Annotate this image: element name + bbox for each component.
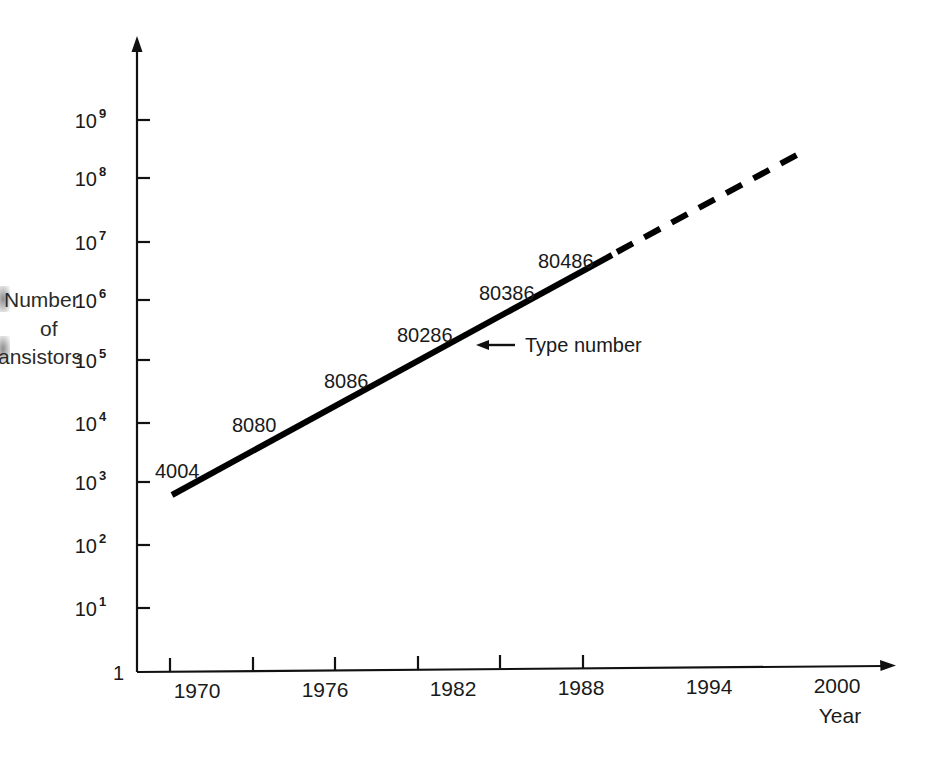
- y-tick-label-exponent: 4: [99, 409, 107, 424]
- y-tick-label-exponent: 7: [99, 228, 106, 243]
- y-tick-label-1e6: 10 6: [75, 286, 106, 312]
- point-label-4004: 4004: [155, 460, 200, 482]
- point-label-8080: 8080: [232, 414, 277, 436]
- figure-canvas: 10 9 10 8 10 7 10 6 10 5 10 4: [0, 0, 932, 768]
- y-tick-label-exponent: 5: [99, 346, 106, 361]
- y-tick-label-mantissa: 10: [75, 110, 97, 132]
- x-axis-line: [137, 666, 884, 672]
- y-tick-label-1e1: 10 1: [75, 594, 106, 620]
- x-axis: 1970 1976 1982 1988 1994 2000: [137, 655, 896, 702]
- point-label-80386: 80386: [479, 282, 535, 304]
- y-axis-title-line-2: of: [40, 317, 58, 340]
- point-label-80486: 80486: [538, 250, 594, 272]
- x-tick-label-2000: 2000: [814, 674, 861, 697]
- type-number-arrowhead-icon: [476, 340, 489, 350]
- x-axis-title: Year: [819, 704, 861, 727]
- x-tick-label-1976: 1976: [302, 678, 349, 701]
- x-tick-label-1982: 1982: [430, 677, 477, 700]
- y-tick-label-mantissa: 10: [75, 413, 97, 435]
- y-tick-label-exponent: 8: [99, 164, 106, 179]
- y-tick-label-1e2: 10 2: [75, 531, 106, 557]
- x-tick-label-1988: 1988: [558, 676, 605, 699]
- y-tick-label-mantissa: 10: [75, 168, 97, 190]
- y-tick-label-exponent: 2: [99, 531, 106, 546]
- transistor-count-chart: 10 9 10 8 10 7 10 6 10 5 10 4: [0, 0, 932, 768]
- type-number-annotation-label: Type number: [525, 334, 642, 356]
- y-axis: 10 9 10 8 10 7 10 6 10 5 10 4: [75, 36, 150, 684]
- y-axis-title-line-1: Number: [4, 288, 79, 311]
- y-tick-label-1e9: 10 9: [75, 106, 106, 132]
- y-tick-label-mantissa: 10: [75, 598, 97, 620]
- y-tick-label-1e3: 10 3: [75, 468, 106, 494]
- y-tick-label-1e8: 10 8: [75, 164, 106, 190]
- y-tick-label-1e7: 10 7: [75, 228, 106, 254]
- x-tick-label-1994: 1994: [686, 675, 733, 698]
- point-label-8086: 8086: [324, 370, 369, 392]
- x-axis-arrowhead: [880, 660, 896, 671]
- y-tick-label-exponent: 6: [99, 286, 106, 301]
- y-tick-label-exponent: 3: [99, 468, 106, 483]
- y-tick-label-mantissa: 10: [75, 472, 97, 494]
- x-tick-label-1970: 1970: [174, 679, 221, 702]
- y-tick-label-1e4: 10 4: [75, 409, 107, 435]
- y-axis-arrowhead: [132, 36, 143, 52]
- series-line-dashed-projection: [617, 149, 808, 252]
- type-number-annotation: Type number: [476, 334, 642, 356]
- y-tick-label-mantissa: 10: [75, 232, 97, 254]
- point-label-80286: 80286: [397, 324, 453, 346]
- y-axis-title-line-3: ansistors: [0, 345, 82, 368]
- y-tick-label-one: 1: [113, 662, 124, 684]
- y-tick-label-exponent: 1: [99, 594, 106, 609]
- y-tick-label-exponent: 9: [99, 106, 106, 121]
- series-line-solid: [172, 255, 612, 495]
- y-tick-label-mantissa: 10: [75, 535, 97, 557]
- y-axis-title: Number of ansistors: [0, 288, 82, 368]
